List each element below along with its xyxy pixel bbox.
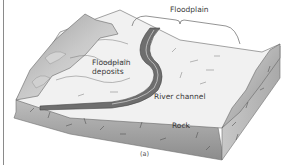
figure-caption: (a) <box>140 150 149 159</box>
label-floodplain: Floodplain <box>170 5 209 14</box>
label-river-channel: River channel <box>154 92 206 101</box>
floodplain-block-diagram <box>0 0 293 165</box>
label-rock: Rock <box>172 121 190 130</box>
label-floodplain-deposits: Floodplain deposits <box>92 58 132 76</box>
